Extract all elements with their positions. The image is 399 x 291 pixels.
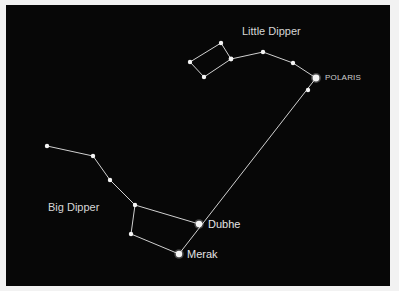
little-dipper-star-icon	[188, 60, 192, 64]
big-dipper-line	[131, 205, 135, 234]
big-dipper-line	[131, 234, 179, 254]
merak-star-icon	[176, 251, 182, 257]
pointer-star-icon	[306, 88, 310, 92]
little-dipper-star-icon	[202, 75, 206, 79]
little-dipper-line	[190, 43, 221, 62]
little-dipper-line	[221, 43, 231, 59]
little-dipper-line	[190, 62, 204, 77]
big-dipper-line	[135, 205, 199, 224]
big-dipper-line	[93, 156, 110, 180]
little-dipper-star-icon	[261, 50, 265, 54]
little-dipper-star-icon	[219, 41, 223, 45]
little-dipper-label: Little Dipper	[242, 26, 301, 37]
merak-label: Merak	[187, 249, 218, 260]
little-dipper-line	[231, 52, 263, 59]
polaris-label: POLARIS	[325, 74, 361, 82]
big-dipper-line	[110, 180, 135, 205]
big-dipper-line	[47, 146, 93, 156]
dubhe-star-icon	[196, 221, 202, 227]
big-dipper-star-icon	[108, 178, 112, 182]
dubhe-label: Dubhe	[208, 219, 240, 230]
big-dipper-label: Big Dipper	[48, 202, 99, 213]
constellation-stars	[45, 41, 321, 259]
little-dipper-line	[204, 59, 231, 77]
big-dipper-star-icon	[129, 232, 133, 236]
constellation-lines	[47, 43, 316, 254]
big-dipper-star-icon	[91, 154, 95, 158]
big-dipper-star-icon	[45, 144, 49, 148]
big-dipper-star-icon	[133, 203, 137, 207]
little-dipper-star-icon	[229, 57, 234, 62]
polaris-star-icon	[313, 75, 320, 82]
little-dipper-line	[263, 52, 293, 63]
little-dipper-star-icon	[291, 61, 295, 65]
